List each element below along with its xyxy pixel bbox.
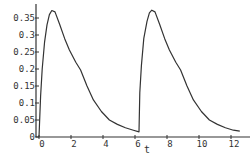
x-tick-label: 8 bbox=[167, 139, 172, 149]
concentration-line bbox=[39, 10, 240, 137]
y-axis-ticks: 00.050.10.150.20.250.30.35 bbox=[13, 13, 39, 142]
y-tick-label: 0.2 bbox=[19, 64, 35, 74]
y-tick-label: 0.05 bbox=[13, 115, 35, 125]
x-tick-label: 10 bbox=[197, 139, 208, 149]
x-tick-label: 0 bbox=[39, 139, 44, 149]
y-tick-label: 0.15 bbox=[13, 81, 35, 91]
x-axis-title: t bbox=[144, 144, 150, 155]
y-tick-label: 0.3 bbox=[19, 30, 35, 40]
y-tick-label: 0.25 bbox=[13, 47, 35, 57]
y-tick-label: 0.35 bbox=[13, 13, 35, 23]
y-tick-label: 0 bbox=[30, 132, 35, 142]
x-tick-label: 2 bbox=[71, 139, 76, 149]
x-tick-label: 12 bbox=[229, 139, 240, 149]
x-tick-label: 4 bbox=[103, 139, 108, 149]
y-tick-label: 0.1 bbox=[19, 98, 35, 108]
line-chart: 024681012 00.050.10.150.20.250.30.35 t bbox=[0, 0, 250, 160]
x-tick-label: 6 bbox=[135, 139, 140, 149]
